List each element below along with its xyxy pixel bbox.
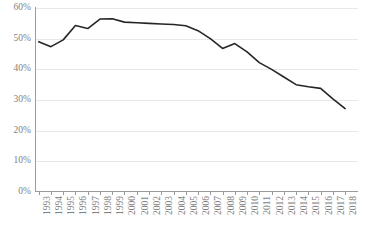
x-axis-tick [272, 192, 273, 195]
x-axis-tick-label: 2011 [263, 196, 273, 215]
x-axis-tick [174, 192, 175, 195]
y-axis-line [35, 7, 36, 192]
x-axis-tick [259, 192, 260, 195]
x-axis-tick-label: 2014 [300, 196, 310, 215]
x-axis-tick-label: 2015 [312, 196, 322, 215]
x-axis-tick-label: 2009 [239, 196, 249, 215]
x-axis-tick [345, 192, 346, 195]
x-axis-tick [210, 192, 211, 195]
x-axis-tick-label: 1999 [116, 196, 126, 215]
x-axis-tick-label: 2007 [214, 196, 224, 215]
x-axis-tick [75, 192, 76, 195]
x-axis-labels: 1993199419951996199719981999200020012002… [35, 196, 358, 247]
x-axis-tick [247, 192, 248, 195]
x-axis-tick [51, 192, 52, 195]
y-axis-tick-label: 0% [18, 187, 31, 197]
x-axis-tick [308, 192, 309, 195]
x-axis-tick-label: 1994 [55, 196, 65, 215]
x-axis-tick [100, 192, 101, 195]
y-axis-tick-label: 30% [14, 95, 31, 105]
x-axis-tick-label: 1995 [67, 196, 77, 215]
x-axis-tick-label: 2000 [128, 196, 138, 215]
x-axis-tick [284, 192, 285, 195]
x-axis-tick-label: 2001 [141, 196, 151, 215]
x-axis-tick-label: 2005 [190, 196, 200, 215]
x-axis-tick [235, 192, 236, 195]
x-axis-tick-label: 1998 [104, 196, 114, 215]
y-axis-tick-label: 10% [14, 157, 31, 167]
line-chart: 60%50%40%30%20%10%0% 1993199419951996199… [0, 0, 373, 247]
x-axis-tick [223, 192, 224, 195]
x-axis-tick-label: 2010 [251, 196, 261, 215]
y-axis-tick-label: 40% [14, 65, 31, 75]
x-axis-tick [321, 192, 322, 195]
x-axis-tick-label: 1997 [92, 196, 102, 215]
x-axis-tick-label: 2013 [288, 196, 298, 215]
y-axis-tick-label: 60% [14, 3, 31, 13]
x-axis-tick-label: 2017 [337, 196, 347, 215]
x-axis-tick [161, 192, 162, 195]
x-axis-tick-label: 2006 [202, 196, 212, 215]
x-axis-tick-label: 2008 [227, 196, 237, 215]
x-axis-tick-label: 2012 [276, 196, 286, 215]
x-axis-tick-label: 1993 [43, 196, 53, 215]
x-axis-tick-label: 2003 [165, 196, 175, 215]
x-axis-tick [124, 192, 125, 195]
x-axis-tick-label: 2002 [153, 196, 163, 215]
series-polyline [39, 19, 345, 109]
x-axis-tick-label: 2004 [178, 196, 188, 215]
y-axis-labels: 60%50%40%30%20%10%0% [0, 0, 34, 247]
x-axis-tick-label: 1996 [79, 196, 89, 215]
y-axis-tick-label: 20% [14, 126, 31, 136]
x-axis-tick [198, 192, 199, 195]
x-axis-tick-label: 2016 [325, 196, 335, 215]
x-axis-ticks [35, 192, 358, 195]
x-axis-tick [112, 192, 113, 195]
x-axis-tick-label: 2018 [349, 196, 359, 215]
x-axis-tick [149, 192, 150, 195]
plot-area [35, 8, 358, 192]
x-axis-tick [137, 192, 138, 195]
x-axis-tick [88, 192, 89, 195]
x-axis-tick [186, 192, 187, 195]
x-axis-tick [63, 192, 64, 195]
data-series-line [35, 8, 358, 192]
x-axis-tick [296, 192, 297, 195]
x-axis-tick [39, 192, 40, 195]
y-axis-tick-label: 50% [14, 34, 31, 44]
x-axis-tick [333, 192, 334, 195]
